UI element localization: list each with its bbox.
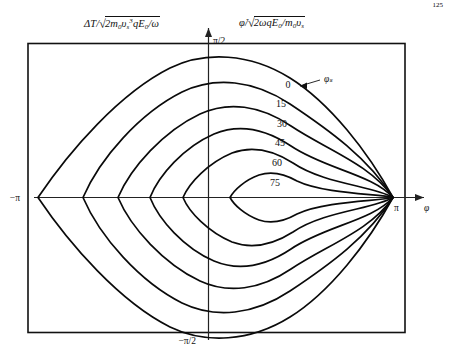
y-axis-arrowhead — [205, 28, 212, 37]
y-axis-tick-bottom: −π/2 — [178, 336, 196, 346]
y-axis-label-radicand-end: /ω — [148, 18, 159, 29]
phase-space-figure: 0 15 30 45 60 75 φₛ π/2 −π/2 −π π φ ΔT/√… — [0, 0, 449, 355]
vertical-axis — [205, 28, 212, 340]
x-axis-arrowhead — [415, 194, 424, 201]
plot-frame — [28, 44, 405, 333]
y-axis-label-radicand-tail: qE — [133, 18, 145, 29]
phase-space-plot-svg: 0 15 30 45 60 75 φₛ π/2 −π/2 −π π φ — [0, 0, 449, 355]
contour-label-30: 30 — [277, 118, 287, 129]
x-axis-label-radicand-a: 2ωqE — [254, 17, 279, 28]
x-axis-label: φ̇/√2ωqE0/m0υs — [239, 16, 305, 31]
contour-label-75: 75 — [270, 177, 280, 188]
contour-label-60: 60 — [272, 157, 282, 168]
contour-label-0: 0 — [286, 79, 291, 90]
y-axis-label: ΔT/√2m0υs3qE0/ω — [84, 16, 160, 32]
y-axis-label-numerator: ΔT/ — [84, 18, 99, 29]
page-number: 125 — [433, 1, 444, 9]
x-axis-label-numerator: φ̇/ — [239, 17, 248, 28]
x-axis-tick-right: π — [394, 203, 399, 213]
x-axis-tick-left: −π — [10, 193, 20, 203]
contour-label-15: 15 — [276, 98, 286, 109]
contour-label-45: 45 — [275, 137, 285, 148]
y-axis-tick-top: π/2 — [213, 36, 225, 46]
y-axis-label-radicand-a: 2m — [105, 18, 118, 29]
x-axis-label-radicand-mid: /m — [282, 17, 293, 28]
x-axis-variable-label: φ — [424, 203, 429, 213]
x-axis-label-radicand-sub3: s — [301, 22, 304, 30]
phi-s-annotation: φₛ — [324, 74, 333, 84]
